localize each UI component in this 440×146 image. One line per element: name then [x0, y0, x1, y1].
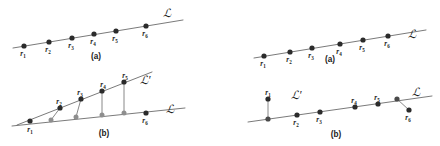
point-r6	[385, 33, 390, 38]
point-r4	[91, 31, 96, 36]
point-r2	[287, 49, 292, 54]
point-label-r5: r5	[374, 94, 380, 103]
point-subscript: 3	[319, 119, 322, 125]
point-label-r2: r2	[45, 46, 51, 55]
panel-left-b: r1r2r3r4r5r6ℒℒ′(b)	[12, 72, 185, 138]
point-subscript: 2	[48, 49, 51, 55]
panel-caption-left-a: (a)	[91, 52, 101, 61]
point-subscript: 5	[115, 38, 118, 44]
point-label-r5: r5	[112, 35, 118, 44]
geometry-figure: r1r2r3r4r5r6ℒ(a)r1r2r3r4r5r6ℒℒ′(b)r1r2r3…	[0, 0, 440, 146]
point-g4	[122, 111, 127, 116]
point-subscript: 3	[311, 55, 314, 61]
point-label-r2: r2	[286, 56, 292, 65]
point-subscript: 4	[354, 100, 357, 106]
point-subscript: 1	[23, 53, 26, 59]
point-subscript: 5	[125, 75, 128, 81]
point-label-r5: r5	[122, 72, 128, 81]
point-subscript: 1	[268, 92, 271, 98]
point-r6	[143, 23, 148, 28]
panel-left-a: r1r2r3r4r5r6ℒ(a)	[13, 7, 183, 61]
point-label-r3: r3	[77, 89, 83, 98]
panel-caption-right-a: (a)	[325, 55, 335, 64]
point-g1	[49, 118, 54, 123]
point-subscript: 3	[71, 45, 74, 51]
point-label-r4: r4	[351, 97, 357, 106]
figure-container: r1r2r3r4r5r6ℒ(a)r1r2r3r4r5r6ℒℒ′(b)r1r2r3…	[0, 0, 440, 146]
point-subscript: 4	[103, 84, 106, 90]
point-label-r6: r6	[405, 114, 411, 123]
point-subscript: 1	[30, 129, 33, 135]
point-label-r6: r6	[142, 30, 148, 39]
point-label-r1: r1	[265, 89, 271, 98]
point-r5	[360, 37, 365, 42]
point-subscript: 3	[80, 92, 83, 98]
point-label-r3: r3	[68, 42, 74, 51]
point-subscript: 6	[145, 120, 148, 126]
point-subscript: 5	[362, 47, 365, 53]
point-subscript: 2	[296, 122, 299, 128]
point-subscript: 2	[289, 59, 292, 65]
line-L_prime	[17, 72, 152, 125]
point-r3	[69, 35, 74, 40]
point-r4	[337, 41, 342, 46]
point-label-r4: r4	[336, 48, 342, 57]
point-label-r4: r4	[100, 81, 106, 90]
point-r1	[27, 118, 32, 123]
point-label-r1: r1	[20, 50, 26, 59]
line-label-L: ℒ	[412, 86, 421, 98]
point-subscript: 4	[93, 41, 96, 47]
point-label-r3: r3	[308, 52, 314, 61]
point-r1	[21, 43, 26, 48]
line-label-L-prime: ℒ′	[140, 74, 151, 86]
point-r6	[143, 110, 148, 115]
point-subscript: 5	[377, 97, 380, 103]
point-subscript: 4	[339, 51, 342, 57]
panel-caption-right-b: (b)	[331, 130, 342, 139]
point-label-r6: r6	[142, 117, 148, 126]
panel-caption-left-b: (b)	[99, 129, 110, 138]
point-label-r1: r1	[27, 126, 33, 135]
point-r1	[261, 53, 266, 58]
point-subscript: 6	[408, 117, 411, 123]
line-L	[13, 20, 183, 48]
point-label-r6: r6	[384, 40, 390, 49]
figure-layer: r1r2r3r4r5r6ℒ(a)r1r2r3r4r5r6ℒℒ′(b)r1r2r3…	[12, 7, 432, 139]
point-r2	[46, 39, 51, 44]
line-label-L-prime: ℒ′	[291, 89, 302, 101]
point-label-r4: r4	[90, 38, 96, 47]
line-label-L: ℒ	[166, 103, 175, 115]
point-g2	[74, 115, 79, 120]
point-label-r1: r1	[260, 60, 266, 69]
point-label-r2: r2	[56, 98, 62, 107]
panel-right-a: r1r2r3r4r5r6ℒ(a)	[254, 28, 426, 69]
point-g3	[100, 113, 105, 118]
point-subscript: 6	[387, 43, 390, 49]
point-r3	[309, 45, 314, 50]
panel-right-b: r1r2r3r4r5r6ℒℒ′(b)	[248, 86, 432, 139]
point-subscript: 1	[263, 63, 266, 69]
line-label-L: ℒ	[408, 28, 417, 40]
point-r5	[113, 28, 118, 33]
point-subscript: 2	[59, 101, 62, 107]
point-r2	[294, 112, 299, 117]
point-r3	[317, 109, 322, 114]
line-label-L: ℒ	[163, 7, 172, 19]
point-label-r2: r2	[293, 119, 299, 128]
point-g1	[265, 116, 270, 121]
point-g2	[394, 96, 399, 101]
point-label-r3: r3	[316, 116, 322, 125]
point-subscript: 6	[145, 33, 148, 39]
point-label-r5: r5	[359, 44, 365, 53]
point-r6	[406, 107, 411, 112]
